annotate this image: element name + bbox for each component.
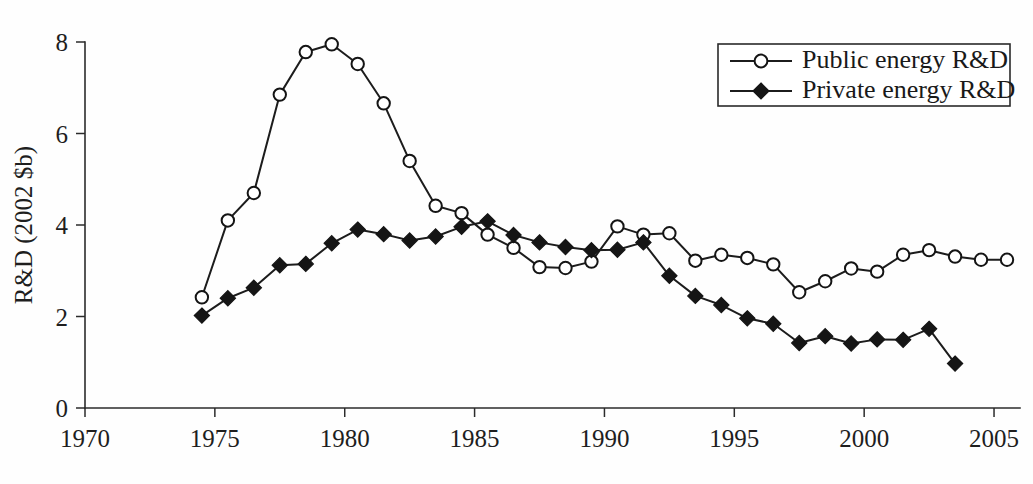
data-point-marker xyxy=(429,200,441,212)
data-point-marker xyxy=(1001,254,1013,266)
x-tick-label: 1990 xyxy=(579,425,629,452)
x-tick-label: 1970 xyxy=(60,425,110,452)
series-private xyxy=(194,214,962,371)
data-point-marker xyxy=(975,254,987,266)
data-point-marker xyxy=(506,227,521,242)
data-point-marker xyxy=(274,88,286,100)
data-point-marker xyxy=(792,335,807,350)
x-tick-label: 1995 xyxy=(709,425,759,452)
y-axis-title: R&D (2002 $b) xyxy=(10,146,38,304)
data-point-marker xyxy=(352,58,364,70)
data-point-marker xyxy=(715,249,727,261)
data-point-marker xyxy=(248,187,260,199)
data-point-marker xyxy=(663,227,675,239)
legend-label: Public energy R&D xyxy=(802,45,1008,74)
y-tick-label: 2 xyxy=(56,304,69,331)
data-point-marker xyxy=(428,229,443,244)
data-point-marker xyxy=(793,286,805,298)
data-point-marker xyxy=(402,233,417,248)
data-point-marker xyxy=(610,242,625,257)
data-point-marker xyxy=(689,254,701,266)
data-point-marker xyxy=(196,291,208,303)
y-tick-label: 6 xyxy=(56,121,69,148)
data-point-marker xyxy=(741,252,753,264)
data-point-marker xyxy=(818,329,833,344)
data-point-marker xyxy=(923,244,935,256)
data-point-marker xyxy=(558,239,573,254)
x-tick-label: 1985 xyxy=(450,425,500,452)
data-point-marker xyxy=(222,214,234,226)
legend-label: Private energy R&D xyxy=(802,75,1015,104)
data-point-marker xyxy=(949,250,961,262)
data-point-marker xyxy=(454,219,469,234)
data-point-marker xyxy=(921,321,936,336)
y-tick-label: 0 xyxy=(56,395,69,422)
y-axis-ticks xyxy=(76,42,85,408)
x-tick-label: 2000 xyxy=(839,425,889,452)
data-point-marker xyxy=(326,38,338,50)
chart-figure: 02468 19701975198019851990199520002005 R… xyxy=(0,0,1033,484)
data-point-marker xyxy=(871,265,883,277)
y-tick-label: 4 xyxy=(56,212,69,239)
data-point-marker xyxy=(819,275,831,287)
data-point-marker xyxy=(896,332,911,347)
data-point-marker xyxy=(507,242,519,254)
x-axis-tick-labels: 19701975198019851990199520002005 xyxy=(60,425,1019,452)
data-point-marker xyxy=(611,220,623,232)
data-point-marker xyxy=(532,235,547,250)
data-point-marker xyxy=(480,214,495,229)
line-chart: 02468 19701975198019851990199520002005 R… xyxy=(0,0,1033,484)
data-point-marker xyxy=(194,308,209,323)
data-point-marker xyxy=(481,228,493,240)
y-tick-label: 8 xyxy=(56,29,69,56)
data-point-marker xyxy=(559,262,571,274)
data-point-marker xyxy=(377,97,389,109)
data-point-marker xyxy=(897,249,909,261)
data-point-marker xyxy=(220,291,235,306)
data-point-marker xyxy=(403,155,415,167)
data-point-marker xyxy=(533,261,545,273)
series-polyline xyxy=(202,221,955,363)
data-point-marker xyxy=(947,356,962,371)
x-tick-label: 1980 xyxy=(320,425,370,452)
data-point-marker xyxy=(870,332,885,347)
y-axis-tick-labels: 02468 xyxy=(56,29,69,422)
data-point-marker xyxy=(845,262,857,274)
data-point-marker xyxy=(766,316,781,331)
data-point-marker xyxy=(714,297,729,312)
x-axis-ticks xyxy=(85,408,994,417)
data-point-marker xyxy=(350,222,365,237)
x-tick-label: 1975 xyxy=(190,425,240,452)
legend-marker-open-circle-icon xyxy=(755,55,768,68)
data-point-marker xyxy=(844,336,859,351)
chart-legend: Public energy R&DPrivate energy R&D xyxy=(718,44,1015,106)
data-point-marker xyxy=(740,311,755,326)
data-point-marker xyxy=(376,227,391,242)
data-point-marker xyxy=(300,46,312,58)
data-point-marker xyxy=(455,207,467,219)
data-point-marker xyxy=(767,258,779,270)
x-tick-label: 2005 xyxy=(969,425,1019,452)
